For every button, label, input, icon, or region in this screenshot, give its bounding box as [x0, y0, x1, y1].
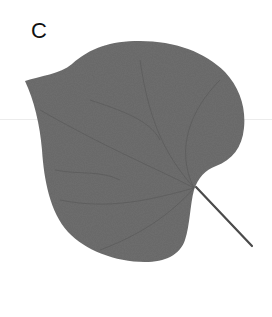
- petiole: [196, 187, 252, 246]
- leaf-blade: [25, 41, 244, 262]
- leaf-image: [0, 0, 272, 317]
